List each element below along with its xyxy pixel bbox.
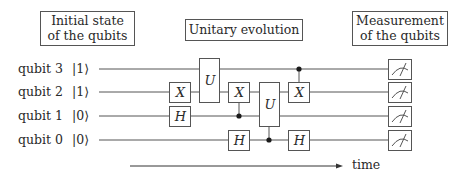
- control-dot-qubit-0: [266, 137, 271, 142]
- cx-gate-1-label: X: [229, 86, 250, 100]
- u-gate-1-label: U: [200, 74, 220, 88]
- h-gate-1-label: H: [170, 110, 191, 124]
- h-gate-3-label: H: [289, 134, 310, 148]
- h-gate-2-label: H: [229, 134, 250, 148]
- meter-icon: [389, 83, 412, 103]
- meter-icon: [389, 131, 412, 151]
- cx-gate-2-label: X: [289, 86, 310, 100]
- time-axis-label: time: [352, 158, 380, 172]
- cu-gate-label: U: [260, 98, 280, 112]
- quantum-circuit-diagram: Initial state of the qubits Unitary evol…: [0, 0, 466, 180]
- x-gate-1-label: X: [170, 86, 191, 100]
- control-dot-qubit-3: [296, 66, 301, 71]
- time-arrow-icon: [130, 164, 343, 169]
- control-dot-qubit-1: [236, 113, 241, 118]
- meter-icon: [389, 60, 412, 80]
- meter-icon: [389, 107, 412, 127]
